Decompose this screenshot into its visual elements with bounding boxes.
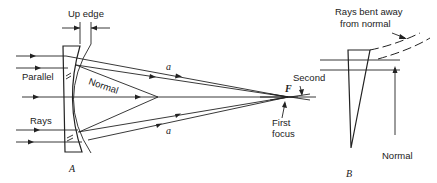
second-focus-label: Second (293, 72, 325, 83)
bent-ray-lower (378, 38, 430, 59)
parallel-label: Parallel (22, 71, 54, 82)
panel-a: Up edge Parallel Rays Normal a a F Secon… (16, 8, 325, 174)
panel-b-label: B (346, 168, 352, 179)
ray-a-top-label: a (166, 61, 171, 72)
first-focus-label-2: focus (272, 128, 295, 139)
panel-a-label: A (68, 163, 76, 174)
prism-wedge (348, 50, 370, 148)
normal-label-a: Normal (87, 75, 120, 95)
lens-diagram: Up edge Parallel Rays Normal a a F Secon… (0, 0, 437, 183)
panel-b: Rays bent away from normal Normal B (320, 6, 430, 179)
lens-a (63, 44, 91, 153)
rays-label: Rays (30, 115, 52, 126)
focus-f-label: F (284, 83, 292, 94)
ray-a-bottom-label: a (166, 125, 171, 136)
rays-bent-label-1: Rays bent away (335, 6, 403, 17)
up-edge-label: Up edge (68, 8, 104, 19)
bent-ray-upper (370, 33, 420, 50)
normal-label-b: Normal (382, 150, 413, 161)
first-focus-label-1: First (272, 117, 291, 128)
rays-bent-label-2: from normal (340, 18, 391, 29)
up-edge-dimension (62, 22, 110, 44)
